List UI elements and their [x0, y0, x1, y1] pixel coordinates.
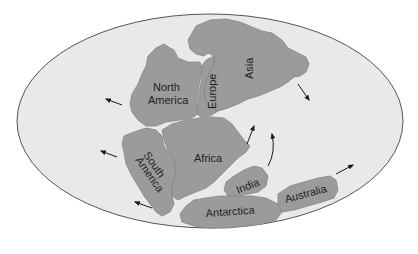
pangaea-map: North America Europe Asia South America …	[0, 0, 418, 254]
label-europe: Europe	[206, 74, 218, 109]
label-asia: Asia	[243, 57, 255, 79]
label-north-america-line2: America	[148, 94, 189, 106]
label-north-america-line1: North	[153, 81, 180, 93]
label-africa: Africa	[194, 152, 223, 164]
